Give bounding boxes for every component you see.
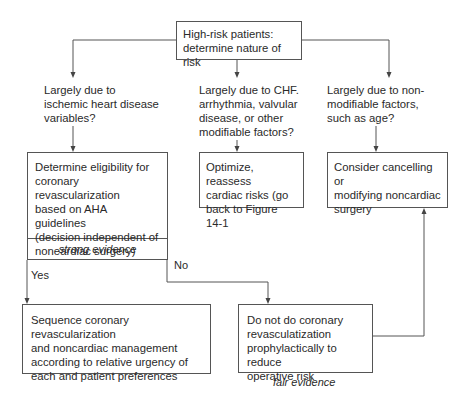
- node-text-line: and noncardiac management: [31, 341, 202, 355]
- node-text-line: coronary revascularization: [35, 174, 160, 202]
- node-text-line: Optimize, reassess: [206, 160, 297, 188]
- question-line: Largely due to CHF.: [199, 83, 319, 97]
- question-line: Largely due to: [44, 83, 164, 97]
- node-text-line: cardiac risks (go: [206, 188, 297, 202]
- node-determine-eligibility: Determine eligibility for coronary revas…: [27, 152, 168, 260]
- node-text-line: back to Figure 14-1: [206, 202, 297, 230]
- question-line: Largely due to non-: [327, 83, 447, 97]
- evidence-label-fair: fair evidence: [273, 376, 335, 389]
- node-do-not-revascularize: Do not do coronary revasculatization pro…: [238, 304, 373, 373]
- node-high-risk-patients: High-risk patients: determine nature of …: [176, 21, 302, 60]
- question-nonmodifiable: Largely due to non- modifiable factors, …: [327, 83, 447, 125]
- edge-label-no: No: [174, 259, 188, 272]
- question-line: variables?: [44, 111, 164, 125]
- node-text-line: Sequence coronary revascularization: [31, 313, 202, 341]
- node-text-line: Do not do coronary: [247, 313, 364, 327]
- flowchart: High-risk patients: determine nature of …: [0, 0, 470, 398]
- node-optimize: Optimize, reassess cardiac risks (go bac…: [199, 152, 304, 208]
- node-text-line: based on AHA guidelines: [35, 202, 160, 230]
- node-text-line: High-risk patients:: [183, 27, 295, 41]
- node-text-line: Determine eligibility for: [35, 160, 160, 174]
- node-text-line: each and patient preferences: [31, 369, 202, 383]
- node-text-line: Consider cancelling or: [334, 160, 441, 188]
- question-line: disease, or other: [199, 111, 319, 125]
- question-line: arrhythmia, valvular: [199, 97, 319, 111]
- node-text-line: determine nature of risk: [183, 41, 295, 69]
- question-line: ischemic heart disease: [44, 97, 164, 111]
- node-text-line: modifying noncardiac: [334, 188, 441, 202]
- question-modifiable: Largely due to CHF. arrhythmia, valvular…: [199, 83, 319, 139]
- question-ischemic: Largely due to ischemic heart disease va…: [44, 83, 164, 125]
- edge-label-yes: Yes: [31, 269, 49, 282]
- node-text-line: surgery: [334, 202, 441, 216]
- node-consider-cancelling: Consider cancelling or modifying noncard…: [327, 152, 448, 208]
- node-sequence-revascularization: Sequence coronary revascularization and …: [22, 304, 211, 374]
- node-text-line: revasculatization: [247, 327, 364, 341]
- node-text-line: prophylactically to reduce: [247, 341, 364, 369]
- question-line: modifiable factors,: [327, 97, 447, 111]
- node-text-line: according to relative urgency of: [31, 355, 202, 369]
- question-line: such as age?: [327, 111, 447, 125]
- question-line: modifiable factors?: [199, 125, 319, 139]
